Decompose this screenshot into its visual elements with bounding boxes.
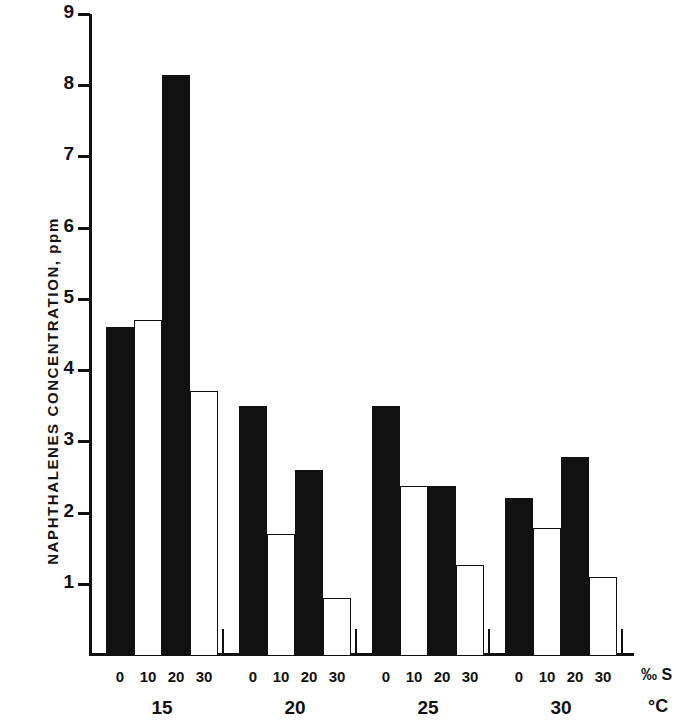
bar-20c-20ppt [295, 470, 323, 655]
bar-20c-30ppt [323, 598, 351, 655]
y-tick-label-8: 8 [54, 72, 74, 94]
bar-30c-30ppt [589, 577, 617, 655]
bar-25c-20ppt [428, 486, 456, 656]
y-tick-label-3: 3 [54, 428, 74, 450]
bar-15c-0ppt [106, 327, 134, 655]
group-separator-3 [488, 629, 490, 655]
bar-group-30c [505, 14, 617, 655]
y-tick-label-6: 6 [54, 215, 74, 237]
y-tick-label-9: 9 [54, 1, 74, 23]
salinity-label-15c-30: 30 [187, 668, 221, 685]
plot-area [89, 14, 634, 655]
group-separator-2 [355, 629, 357, 655]
bar-30c-20ppt [561, 457, 589, 655]
group-separator-4 [621, 629, 623, 655]
bar-30c-10ppt [533, 528, 561, 655]
salinity-label-25c-30: 30 [453, 668, 487, 685]
bar-25c-0ppt [372, 406, 400, 655]
bar-15c-20ppt [162, 75, 190, 655]
salinity-label-20c-30: 30 [320, 668, 354, 685]
group-separator-0 [89, 629, 91, 655]
salinity-unit-label: ‰ S [641, 666, 672, 684]
temperature-unit-label: °C [648, 696, 668, 717]
bar-30c-0ppt [505, 498, 533, 655]
y-tick-label-4: 4 [54, 357, 74, 379]
temperature-label-15: 15 [127, 697, 197, 719]
temperature-label-25: 25 [393, 697, 463, 719]
y-tick-label-2: 2 [54, 500, 74, 522]
y-tick-label-5: 5 [54, 286, 74, 308]
salinity-label-30c-30: 30 [586, 668, 620, 685]
bar-group-15c [106, 14, 218, 655]
bar-15c-10ppt [134, 320, 162, 655]
bar-25c-10ppt [400, 486, 428, 655]
group-separator-1 [222, 629, 224, 655]
bar-20c-0ppt [239, 406, 267, 655]
bar-25c-30ppt [456, 565, 484, 655]
y-tick-label-1: 1 [54, 571, 74, 593]
temperature-label-30: 30 [526, 697, 596, 719]
bar-group-20c [239, 14, 351, 655]
temperature-label-20: 20 [260, 697, 330, 719]
bar-group-25c [372, 14, 484, 655]
bar-chart: NAPHTHALENES CONCENTRATION, ppm 12345678… [0, 0, 683, 728]
y-tick-label-7: 7 [54, 143, 74, 165]
bar-20c-10ppt [267, 534, 295, 655]
bar-15c-30ppt [190, 391, 218, 655]
